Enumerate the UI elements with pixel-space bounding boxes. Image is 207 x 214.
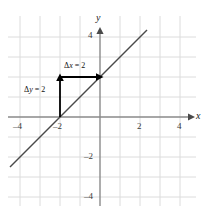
plotted-line <box>10 30 147 167</box>
x-axis <box>8 113 195 120</box>
delta-x-arrow <box>60 73 104 81</box>
x-axis-name: x <box>196 111 200 121</box>
x-tick-label-neg2: –2 <box>53 122 62 131</box>
y-axis-name: y <box>96 13 100 23</box>
x-tick-label-2: 2 <box>137 122 142 131</box>
graph-figure: –4 –2 2 4 4 –2 –4 x y Δx = 2 Δy = 2 <box>0 0 207 214</box>
y-tick-label-4: 4 <box>88 31 93 40</box>
delta-x-value: = 2 <box>73 61 86 70</box>
delta-y-arrow <box>56 74 64 118</box>
x-axis-arrowhead <box>188 113 195 120</box>
y-axis-arrowhead <box>96 27 103 34</box>
delta-y-label: Δy = 2 <box>24 86 45 94</box>
delta-y-value: = 2 <box>33 85 46 94</box>
x-tick-label-neg4: –4 <box>13 122 22 131</box>
coordinate-plane-svg <box>0 0 207 214</box>
y-tick-label-neg2: –2 <box>84 152 93 161</box>
y-tick-label-neg4: –4 <box>84 192 93 201</box>
delta-x-label: Δx = 2 <box>64 62 85 70</box>
grid-lines <box>8 16 196 206</box>
x-tick-label-4: 4 <box>177 122 182 131</box>
